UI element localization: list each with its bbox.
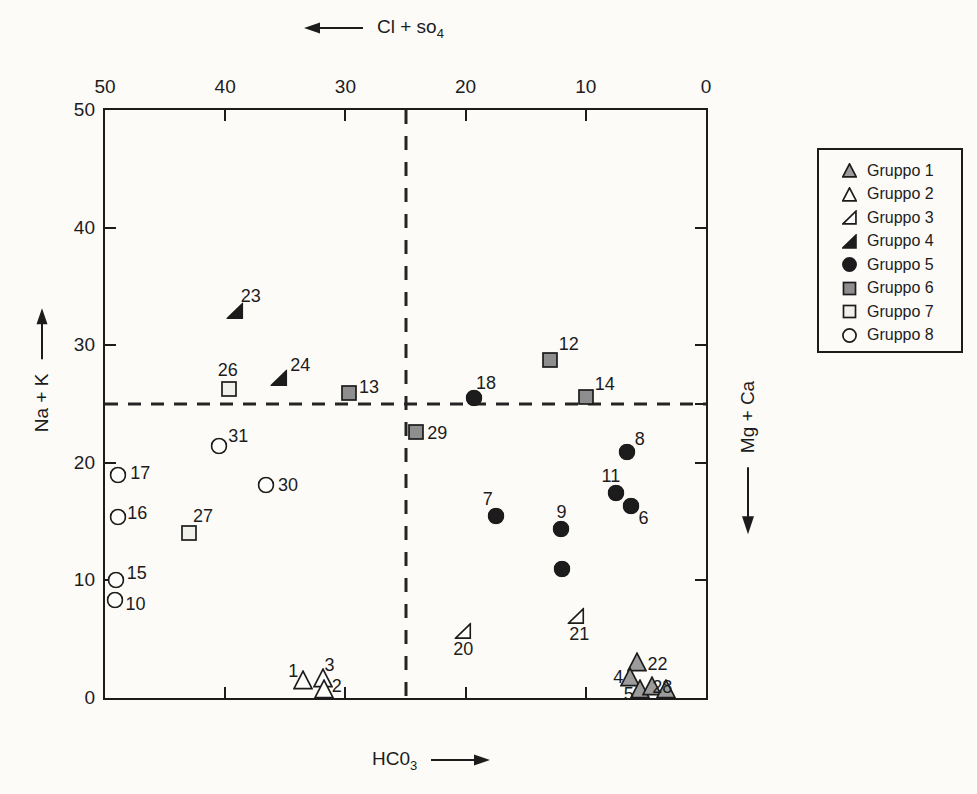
data-point-marker xyxy=(553,560,570,577)
triangle-marker-icon xyxy=(842,163,857,178)
data-point-label: 17 xyxy=(130,462,150,483)
legend-item-label: Gruppo 6 xyxy=(867,279,934,297)
down-arrow-icon xyxy=(740,465,756,535)
right-axis-title-label: Mg + Ca xyxy=(737,381,759,453)
data-point-label: 16 xyxy=(127,502,147,523)
data-point-label: 14 xyxy=(595,373,615,394)
legend-item: Gruppo 3 xyxy=(842,206,961,230)
data-point-label: 13 xyxy=(359,377,379,398)
legend-item: Gruppo 1 xyxy=(842,159,961,183)
dashed-vertical-line xyxy=(404,110,407,698)
data-point-label: 9 xyxy=(557,501,567,522)
data-point-label: 4 xyxy=(613,666,623,687)
data-point-label: 28 xyxy=(652,676,672,697)
tick-mark xyxy=(344,687,346,698)
data-point-marker xyxy=(211,438,228,455)
tick-mark xyxy=(224,687,226,698)
left-axis-title: Na + K xyxy=(31,308,53,433)
data-point-label: 6 xyxy=(638,508,648,529)
tick-mark xyxy=(344,110,346,121)
legend-item-label: Gruppo 4 xyxy=(867,232,934,250)
data-point-marker xyxy=(341,385,358,402)
tick-mark xyxy=(585,110,587,121)
data-point-marker xyxy=(607,485,624,502)
legend-item-label: Gruppo 3 xyxy=(867,209,934,227)
x-tick-label: 10 xyxy=(575,76,596,98)
right-triangle-marker-icon xyxy=(842,210,857,225)
tick-mark xyxy=(695,579,706,581)
right-triangle-marker-icon xyxy=(842,234,857,249)
data-point-marker xyxy=(618,444,635,461)
data-point-label: 21 xyxy=(569,623,589,644)
data-point-marker xyxy=(110,466,127,483)
up-arrow-icon xyxy=(35,308,49,362)
data-point-label: 23 xyxy=(241,286,261,307)
x-tick-label: 40 xyxy=(215,76,236,98)
tick-mark xyxy=(105,227,116,229)
legend-item-label: Gruppo 1 xyxy=(867,162,934,180)
data-point-marker xyxy=(552,520,569,537)
tick-mark xyxy=(465,687,467,698)
legend-item: Gruppo 2 xyxy=(842,183,961,207)
data-point-label: 27 xyxy=(193,506,213,527)
data-point-label: 30 xyxy=(278,475,298,496)
data-point-marker xyxy=(577,388,594,405)
legend-item-label: Gruppo 7 xyxy=(867,303,934,321)
bottom-axis-title-label: HC03 xyxy=(372,748,417,773)
y-tick-label: 0 xyxy=(84,687,95,709)
data-point-label: 22 xyxy=(647,653,667,674)
data-point-label: 11 xyxy=(602,466,621,487)
data-point-marker xyxy=(271,370,288,387)
data-point-label: 26 xyxy=(218,359,238,380)
legend: Gruppo 1Gruppo 2Gruppo 3Gruppo 4Gruppo 5… xyxy=(817,148,963,353)
circle-marker-icon xyxy=(842,328,857,343)
data-point-label: 29 xyxy=(427,423,447,444)
x-tick-label: 50 xyxy=(94,76,115,98)
figure: Cl + so4 HC03 Na + K Mg + Ca xyxy=(0,0,977,794)
right-arrow-icon xyxy=(429,753,491,767)
data-point-label: 24 xyxy=(290,355,310,376)
data-point-label: 31 xyxy=(228,426,248,447)
circle-marker-icon xyxy=(842,257,857,272)
legend-item-label: Gruppo 8 xyxy=(867,326,934,344)
legend-item: Gruppo 4 xyxy=(842,230,961,254)
left-axis-title-label: Na + K xyxy=(31,374,53,433)
y-tick-label: 30 xyxy=(74,334,95,356)
data-point-label: 15 xyxy=(127,563,147,584)
data-point-label: 5 xyxy=(624,683,634,704)
tick-mark xyxy=(105,462,116,464)
data-point-marker xyxy=(106,592,123,609)
legend-item: Gruppo 8 xyxy=(842,324,961,348)
data-point-label: 1 xyxy=(288,661,298,682)
data-point-label: 20 xyxy=(453,638,473,659)
legend-item: Gruppo 7 xyxy=(842,300,961,324)
legend-item: Gruppo 6 xyxy=(842,277,961,301)
legend-item-label: Gruppo 5 xyxy=(867,256,934,274)
top-axis-title-label: Cl + so4 xyxy=(377,16,444,41)
data-point-marker xyxy=(107,572,124,589)
data-point-label: 10 xyxy=(126,594,146,615)
data-point-marker xyxy=(181,525,198,542)
data-point-label: 18 xyxy=(476,373,496,394)
y-tick-label: 50 xyxy=(74,99,95,121)
data-point-marker xyxy=(541,352,558,369)
data-point-marker xyxy=(568,607,585,624)
x-tick-label: 0 xyxy=(701,76,712,98)
tick-mark xyxy=(105,344,116,346)
tick-mark xyxy=(585,687,587,698)
tick-mark xyxy=(695,462,706,464)
top-axis-title: Cl + so4 xyxy=(303,16,444,41)
data-point-label: 3 xyxy=(325,655,335,676)
left-arrow-icon xyxy=(303,21,365,35)
data-point-marker xyxy=(258,477,275,494)
y-tick-label: 20 xyxy=(74,452,95,474)
y-tick-label: 10 xyxy=(74,569,95,591)
tick-mark xyxy=(224,110,226,121)
tick-mark xyxy=(695,227,706,229)
square-marker-icon xyxy=(842,281,857,296)
bottom-axis-title: HC03 xyxy=(372,748,491,773)
data-point-marker xyxy=(623,498,640,515)
data-point-label: 2 xyxy=(332,675,342,696)
data-point-label: 7 xyxy=(483,488,493,509)
data-point-label: 12 xyxy=(559,334,579,355)
